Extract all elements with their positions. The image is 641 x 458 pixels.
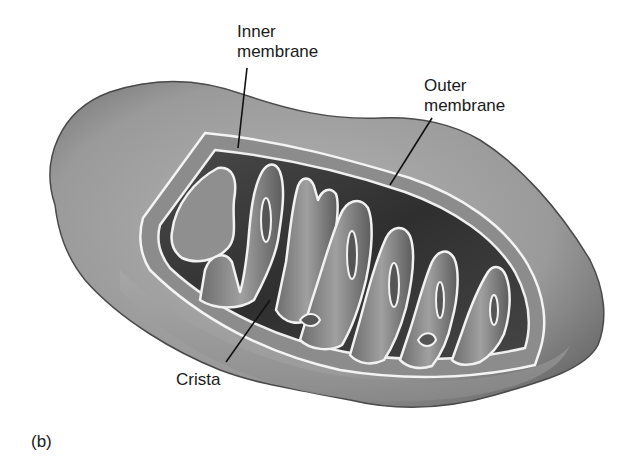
panel-label: (b) bbox=[31, 432, 52, 452]
mitochondrion-diagram: Inner membrane Outer membrane Crista (b) bbox=[0, 0, 641, 458]
crista-label: Crista bbox=[176, 370, 220, 390]
mitochondrion-illustration bbox=[0, 0, 641, 458]
outer-membrane-label: Outer membrane bbox=[424, 76, 505, 116]
inner-membrane-label: Inner membrane bbox=[237, 22, 318, 62]
